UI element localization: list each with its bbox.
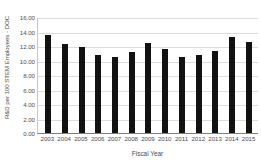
y-tick-label: 8.00 <box>23 73 35 79</box>
bar <box>79 47 85 133</box>
bar <box>179 57 185 133</box>
bar-slot <box>207 18 224 133</box>
y-tick-label: 2.00 <box>23 116 35 122</box>
y-tick-label: 0.00 <box>23 131 35 137</box>
bar <box>95 55 101 133</box>
bar-slot <box>40 18 57 133</box>
bar <box>129 52 135 133</box>
y-tick-label: 10.00 <box>20 58 35 64</box>
x-tick-label: 2009 <box>140 136 157 148</box>
bar-slot <box>57 18 74 133</box>
x-tick-label: 2013 <box>207 136 224 148</box>
y-tick-label: 4.00 <box>23 102 35 108</box>
x-tick-label: 2008 <box>123 136 140 148</box>
y-tick-label: 14.00 <box>20 29 35 35</box>
y-tick-label: 16.00 <box>20 15 35 21</box>
x-tick-label: 2005 <box>73 136 90 148</box>
bar <box>246 42 252 133</box>
bars-container <box>38 18 258 133</box>
y-axis-tick-labels: 16.0014.0012.0010.008.006.004.002.000.00 <box>14 18 36 134</box>
bar <box>196 55 202 133</box>
bar-slot <box>224 18 241 133</box>
bar-slot <box>174 18 191 133</box>
x-tick-label: 2010 <box>156 136 173 148</box>
bar-slot <box>157 18 174 133</box>
bar-slot <box>90 18 107 133</box>
y-axis-title-text: R&D per 100 STEM Employees - DOC <box>4 15 11 118</box>
bar <box>112 57 118 133</box>
x-tick-label: 2011 <box>173 136 190 148</box>
bar-slot <box>240 18 257 133</box>
bar-slot <box>190 18 207 133</box>
y-tick-label: 12.00 <box>20 44 35 50</box>
bar <box>162 49 168 133</box>
bar <box>62 44 68 133</box>
bar-slot <box>123 18 140 133</box>
bar <box>212 51 218 133</box>
x-tick-label: 2014 <box>223 136 240 148</box>
x-tick-label: 2012 <box>190 136 207 148</box>
bar-slot <box>73 18 90 133</box>
bar-slot <box>107 18 124 133</box>
bar <box>145 43 151 133</box>
plot-area <box>37 18 258 134</box>
y-tick-label: 6.00 <box>23 87 35 93</box>
x-tick-label: 2007 <box>106 136 123 148</box>
x-tick-label: 2003 <box>39 136 56 148</box>
bar <box>45 35 51 133</box>
bar-slot <box>140 18 157 133</box>
bar-chart: R&D per 100 STEM Employees - DOC 16.0014… <box>0 0 261 166</box>
x-axis-tick-labels: 2003200420052006200720082009201020112012… <box>37 136 258 148</box>
y-axis-title: R&D per 100 STEM Employees - DOC <box>0 0 14 134</box>
x-tick-label: 2006 <box>89 136 106 148</box>
x-axis-title: Fiscal Year <box>37 150 258 157</box>
x-tick-label: 2015 <box>240 136 257 148</box>
x-tick-label: 2004 <box>56 136 73 148</box>
bar <box>229 37 235 133</box>
